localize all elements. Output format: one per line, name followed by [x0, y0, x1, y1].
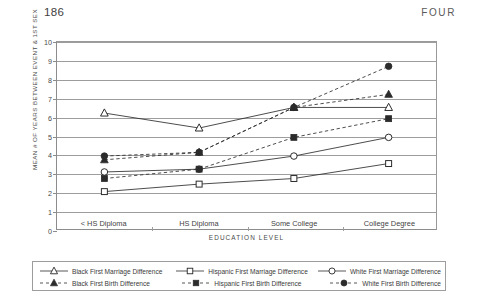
x-tick-label: HS Diploma [179, 219, 218, 228]
legend-label: White First Birth Difference [362, 280, 441, 287]
legend-marker-triangle-open-icon [39, 266, 69, 276]
series-square-open [101, 161, 391, 195]
y-tick-label: 10 [44, 38, 52, 47]
chart-legend: Black First Marriage DifferenceHispanic … [32, 261, 446, 291]
data-point [101, 189, 107, 195]
legend-row-birth: Black First Birth DifferenceHispanic Fir… [39, 277, 441, 289]
chart-figure: MEAN # OF YEARS BETWEEN EVENT & 1ST SEX … [0, 26, 478, 241]
y-tick-label: 5 [48, 132, 52, 141]
legend-label: Black First Marriage Difference [72, 268, 162, 275]
y-tick-label: 8 [48, 75, 52, 84]
x-tick-label: < HS Diploma [81, 219, 127, 228]
legend-marker-circle-open-icon [317, 266, 347, 276]
series-circle-open [101, 134, 392, 175]
legend-item[interactable]: White First Birth Difference [329, 278, 441, 288]
data-point [291, 153, 298, 160]
x-tick-label: Some College [271, 219, 317, 228]
x-tick-label: College Degree [364, 219, 415, 228]
legend-item[interactable]: Black First Marriage Difference [39, 266, 175, 276]
data-point [196, 166, 202, 172]
data-point [196, 149, 203, 156]
legend-item[interactable]: Black First Birth Difference [39, 278, 181, 288]
series-line [104, 164, 388, 192]
data-point [101, 109, 109, 116]
legend-row-marriage: Black First Marriage DifferenceHispanic … [39, 265, 441, 277]
data-point [196, 181, 202, 187]
data-point [291, 104, 298, 111]
legend-marker-square-filled-icon [181, 278, 211, 288]
data-point [291, 176, 297, 182]
data-series-layer [57, 42, 436, 229]
y-tick-label: 7 [48, 94, 52, 103]
running-head: FOUR [421, 7, 456, 18]
data-point [386, 116, 392, 122]
data-point [101, 176, 107, 182]
series-circle-filled [101, 63, 392, 159]
data-point [385, 90, 393, 97]
data-point [385, 103, 393, 110]
series-line [104, 107, 388, 128]
series-line [104, 66, 388, 156]
series-line [104, 119, 388, 179]
legend-label: Hispanic First Birth Difference [214, 280, 301, 287]
y-tick-label: 6 [48, 113, 52, 122]
y-tick-label: 0 [48, 227, 52, 236]
legend-label: Black First Birth Difference [72, 280, 150, 287]
data-point [101, 169, 108, 176]
y-tick-mark [53, 231, 57, 232]
y-tick-label: 2 [48, 189, 52, 198]
legend-label: White First Marriage Difference [350, 268, 441, 275]
data-point [385, 134, 392, 141]
y-tick-label: 9 [48, 56, 52, 65]
page-number: 186 [44, 6, 64, 18]
y-axis-label: MEAN # OF YEARS BETWEEN EVENT & 1ST SEX [31, 0, 38, 185]
y-tick-label: 3 [48, 170, 52, 179]
legend-marker-triangle-filled-icon [39, 278, 69, 288]
legend-item[interactable]: White First Marriage Difference [317, 266, 441, 276]
plot-area: 012345678910 [56, 41, 437, 230]
series-square-filled [101, 116, 391, 182]
legend-marker-circle-filled-icon [329, 278, 359, 288]
data-point [386, 161, 392, 167]
legend-item[interactable]: Hispanic First Marriage Difference [175, 266, 317, 276]
series-line [104, 94, 388, 159]
legend-label: Hispanic First Marriage Difference [208, 268, 308, 275]
x-axis-label: EDUCATION LEVEL [56, 234, 437, 241]
page-root: 186 FOUR MEAN # OF YEARS BETWEEN EVENT &… [0, 0, 478, 299]
legend-item[interactable]: Hispanic First Birth Difference [181, 278, 329, 288]
legend-marker-square-open-icon [175, 266, 205, 276]
y-tick-label: 1 [48, 208, 52, 217]
data-point [101, 153, 108, 160]
data-point [291, 134, 297, 140]
y-tick-label: 4 [48, 151, 52, 160]
page-header: 186 FOUR [0, 6, 478, 22]
data-point [385, 63, 392, 70]
